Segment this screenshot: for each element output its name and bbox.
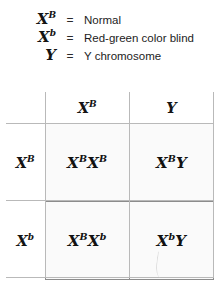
guide-rule-horizontal xyxy=(6,123,214,124)
punnett-grid: XB Y XB XBXB XBY Xb XBXb XbY xyxy=(6,92,214,280)
legend-description: Y chromosome xyxy=(78,50,161,62)
equals-sign: = xyxy=(62,31,78,45)
column-header-2: Y xyxy=(129,92,213,124)
guide-rule-vertical xyxy=(129,92,130,278)
genotype-cell-1-1: XBXB xyxy=(45,124,129,202)
row-header-1: XB xyxy=(6,124,45,202)
legend-description: Normal xyxy=(78,14,121,26)
grid-row: Xb XBXb XbY xyxy=(6,202,214,280)
genotype-cell-1-2: XBY xyxy=(129,124,213,202)
legend-symbol: Xb xyxy=(0,28,62,46)
grid-corner-cell xyxy=(6,92,45,124)
equals-sign: = xyxy=(62,49,78,63)
row-header-superscript: b xyxy=(28,232,34,242)
legend-symbol-superscript: B xyxy=(48,10,56,20)
guide-rule-horizontal xyxy=(6,200,214,201)
column-header-superscript: B xyxy=(89,99,97,109)
legend-symbol-superscript: b xyxy=(50,28,56,38)
legend-symbol: Y xyxy=(0,46,62,64)
equals-sign: = xyxy=(62,13,78,27)
legend-description: Red-green color blind xyxy=(78,32,194,44)
row-header-superscript: B xyxy=(27,154,35,164)
column-header-1: XB xyxy=(45,92,129,124)
row-header-2: Xb xyxy=(6,202,45,280)
guide-rule-horizontal xyxy=(6,277,214,278)
guide-rule-vertical xyxy=(45,92,46,278)
guide-rule-vertical xyxy=(213,92,214,278)
punnett-square: XB Y XB XBXB XBY Xb XBXb XbY xyxy=(6,92,214,278)
legend-row: Y = Y chromosome xyxy=(0,46,224,64)
grid-header-row: XB Y xyxy=(6,92,214,124)
legend-symbol: XB xyxy=(0,10,62,28)
legend-row: Xb = Red-green color blind xyxy=(0,28,224,46)
grid-row: XB XBXB XBY xyxy=(6,124,214,202)
legend-row: XB = Normal xyxy=(0,10,224,28)
genotype-cell-2-2: XbY xyxy=(129,202,213,280)
allele-legend: XB = Normal Xb = Red-green color blind Y… xyxy=(0,10,224,64)
genotype-cell-2-1: XBXb xyxy=(45,202,129,280)
